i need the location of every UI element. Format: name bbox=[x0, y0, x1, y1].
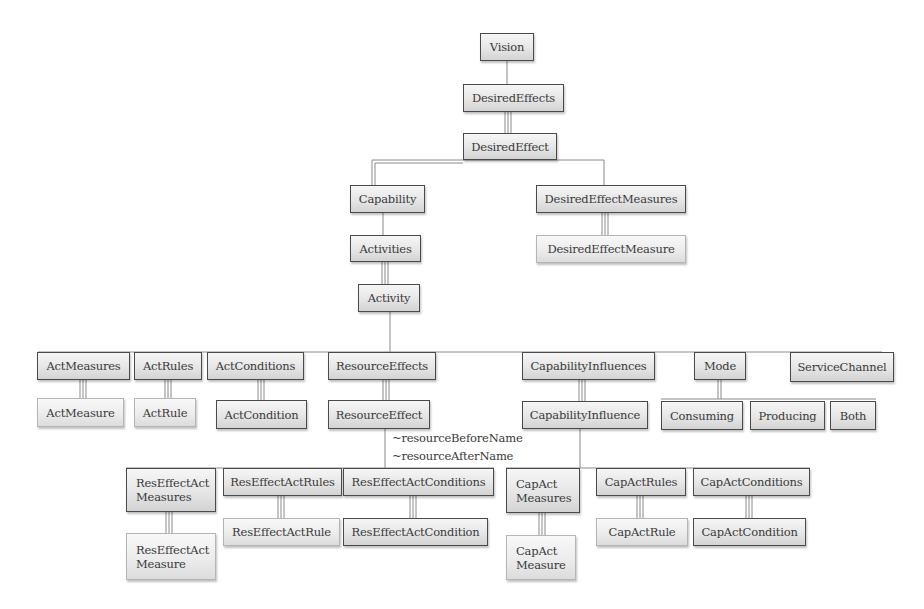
node-desired-effect-measures: DesiredEffectMeasures bbox=[536, 185, 686, 213]
node-vision: Vision bbox=[480, 33, 534, 61]
node-res-effect-act-measures: ResEffectAct Measures bbox=[126, 468, 216, 512]
node-resource-effects: ResourceEffects bbox=[328, 352, 436, 380]
node-cap-act-rules: CapActRules bbox=[596, 468, 686, 496]
annotation-resource-before-name: ~resourceBeforeName bbox=[392, 431, 522, 445]
node-act-condition: ActCondition bbox=[216, 400, 307, 429]
node-capability-influence: CapabilityInfluence bbox=[522, 401, 648, 429]
node-act-measures: ActMeasures bbox=[37, 352, 130, 380]
node-act-rule: ActRule bbox=[134, 398, 196, 427]
node-desired-effect: DesiredEffect bbox=[463, 133, 557, 160]
node-res-effect-act-rules: ResEffectActRules bbox=[223, 468, 342, 496]
node-res-effect-act-condition: ResEffectActCondition bbox=[343, 518, 488, 546]
hierarchy-diagram: Vision DesiredEffects DesiredEffect Capa… bbox=[0, 0, 924, 609]
node-service-channel: ServiceChannel bbox=[790, 352, 894, 382]
node-desired-effects: DesiredEffects bbox=[463, 84, 564, 112]
node-desired-effect-measure: DesiredEffectMeasure bbox=[536, 235, 686, 263]
node-consuming: Consuming bbox=[661, 401, 743, 430]
node-both: Both bbox=[830, 401, 876, 430]
node-res-effect-act-measure: ResEffectAct Measure bbox=[126, 533, 216, 580]
annotation-resource-after-name: ~resourceAfterName bbox=[392, 449, 513, 463]
node-act-measure: ActMeasure bbox=[37, 398, 124, 427]
node-cap-act-measure: CapAct Measure bbox=[506, 535, 576, 580]
node-activities: Activities bbox=[350, 235, 421, 262]
node-cap-act-condition: CapActCondition bbox=[693, 518, 806, 546]
node-cap-act-conditions: CapActConditions bbox=[693, 468, 810, 496]
node-capability-influences: CapabilityInfluences bbox=[522, 352, 655, 380]
node-act-rules: ActRules bbox=[134, 352, 202, 380]
node-cap-act-rule: CapActRule bbox=[596, 518, 688, 546]
node-resource-effect: ResourceEffect bbox=[328, 400, 430, 429]
node-cap-act-measures: CapAct Measures bbox=[506, 468, 580, 513]
node-act-conditions: ActConditions bbox=[207, 352, 304, 380]
node-res-effect-act-conditions: ResEffectActConditions bbox=[343, 468, 494, 496]
node-activity: Activity bbox=[358, 284, 420, 312]
node-capability: Capability bbox=[350, 185, 425, 213]
node-res-effect-act-rule: ResEffectActRule bbox=[223, 518, 340, 546]
node-producing: Producing bbox=[750, 401, 825, 430]
node-mode: Mode bbox=[694, 352, 746, 380]
